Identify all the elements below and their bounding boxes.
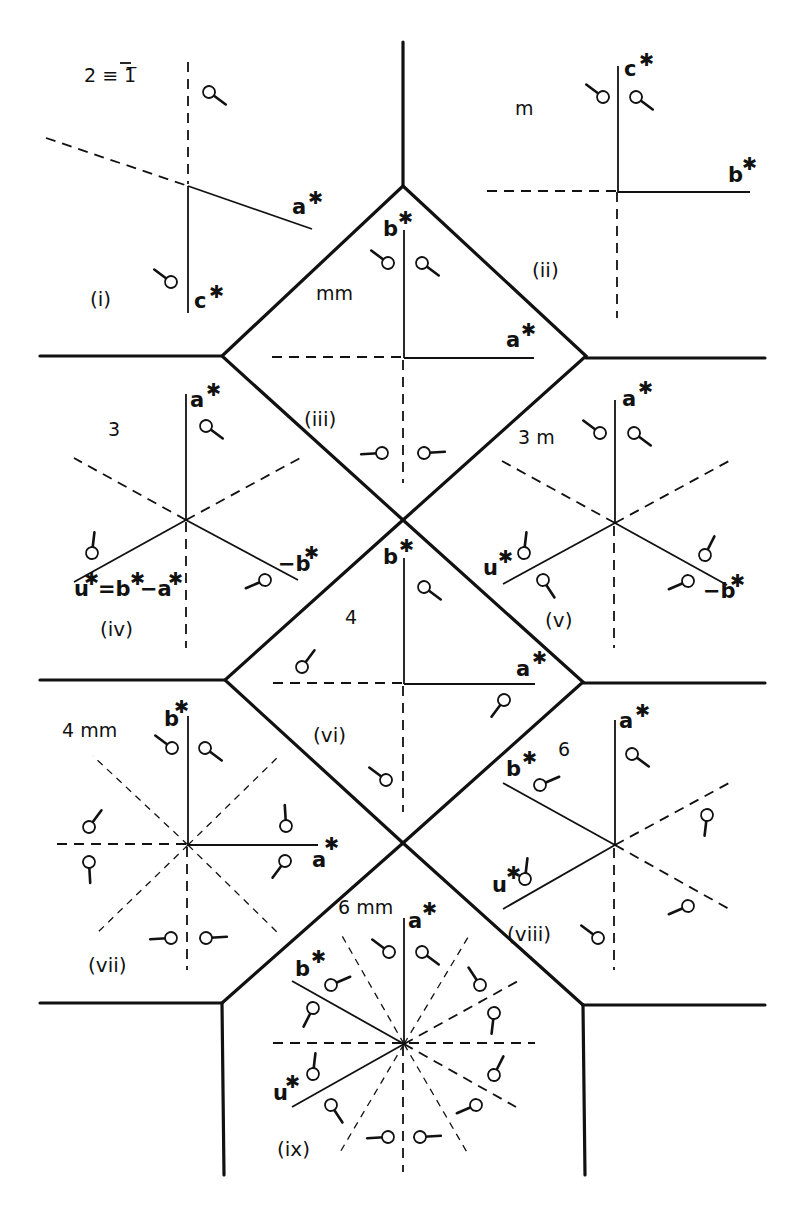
- panel-label: (ix): [277, 1137, 310, 1161]
- panel-label: (vi): [313, 723, 346, 747]
- svg-text:a: a: [190, 388, 204, 412]
- svg-text:a: a: [292, 195, 306, 219]
- svg-text:a: a: [506, 328, 520, 352]
- svg-text:✱: ✱: [209, 281, 224, 302]
- symmetry-label: 6: [558, 738, 570, 760]
- symmetry-label: mm: [316, 282, 353, 304]
- svg-text:✱: ✱: [399, 535, 414, 556]
- svg-text:c: c: [624, 57, 636, 81]
- panel-i: 2 ≡ 1̅ a✱ c✱ (i): [46, 62, 323, 313]
- symmetry-label: 4: [345, 606, 357, 628]
- panel-label: (vii): [88, 953, 127, 977]
- symmetry-label: m: [515, 97, 534, 119]
- svg-text:✱: ✱: [742, 153, 757, 174]
- svg-text:b: b: [295, 957, 310, 981]
- symmetry-label: 3 m: [518, 426, 555, 448]
- svg-text:✱: ✱: [398, 207, 413, 228]
- svg-text:b: b: [728, 163, 743, 187]
- svg-text:✱: ✱: [285, 1071, 300, 1092]
- panel-label: (iv): [100, 617, 133, 641]
- symmetry-label: 3: [108, 418, 120, 440]
- svg-text:✱: ✱: [84, 568, 99, 589]
- panel-label: (v): [545, 608, 572, 632]
- panel-v: 3 m a✱ u✱ −b✱ (v): [483, 377, 745, 648]
- svg-text:a: a: [516, 657, 530, 681]
- svg-text:✱: ✱: [498, 546, 513, 567]
- svg-text:b: b: [383, 217, 398, 241]
- svg-text:✱: ✱: [506, 862, 521, 883]
- svg-text:✱: ✱: [304, 542, 319, 563]
- svg-text:✱: ✱: [521, 319, 536, 340]
- panel-iv: 3 a✱ −b✱ u✱ =b✱ −a✱ (iv): [74, 379, 319, 648]
- panel-viii: 6 a✱ b✱ u✱ (viii): [492, 700, 729, 970]
- svg-text:✱: ✱: [730, 570, 745, 591]
- symmetry-label: 4 mm: [62, 719, 117, 741]
- svg-text:−a: −a: [140, 577, 172, 601]
- svg-text:c: c: [194, 289, 206, 313]
- svg-text:✱: ✱: [638, 377, 653, 398]
- panel-iii: mm b✱ a✱ (iii): [272, 207, 536, 483]
- svg-text:✱: ✱: [532, 647, 547, 668]
- svg-text:a: a: [408, 909, 422, 933]
- panel-label: (ii): [532, 258, 559, 282]
- panel-label: (i): [90, 287, 111, 311]
- svg-text:✱: ✱: [168, 568, 183, 589]
- svg-text:b: b: [506, 757, 521, 781]
- panel-label: (iii): [304, 407, 336, 431]
- svg-text:✱: ✱: [311, 946, 326, 967]
- svg-text:✱: ✱: [324, 833, 339, 854]
- svg-text:a: a: [619, 709, 633, 733]
- svg-text:✱: ✱: [422, 898, 437, 919]
- svg-text:a: a: [622, 387, 636, 411]
- panel-ii: m c✱ b✱ (ii): [487, 49, 757, 318]
- symmetry-label: 2 ≡ 1̅: [84, 64, 137, 86]
- svg-text:=b: =b: [98, 577, 131, 601]
- svg-text:✱: ✱: [174, 696, 189, 717]
- svg-text:✱: ✱: [522, 747, 537, 768]
- svg-text:u: u: [483, 556, 498, 580]
- reciprocal-lattice-symmetry-diagram: 2 ≡ 1̅ a✱ c✱ (i) m c✱ b✱ (ii) mm b✱: [0, 0, 793, 1213]
- svg-text:b: b: [383, 545, 398, 569]
- svg-text:✱: ✱: [206, 379, 221, 400]
- svg-text:✱: ✱: [635, 700, 650, 721]
- panel-label: (viii): [507, 922, 551, 946]
- svg-text:✱: ✱: [308, 187, 323, 208]
- svg-text:✱: ✱: [639, 49, 654, 70]
- panel-ix: 6 mm a✱ b✱ u✱ (ix): [273, 896, 535, 1172]
- svg-text:u: u: [492, 873, 507, 897]
- symmetry-label: 6 mm: [338, 896, 393, 918]
